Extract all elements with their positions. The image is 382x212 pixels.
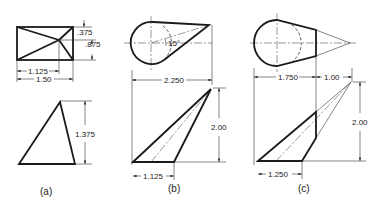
dim-c-100: 1.00 xyxy=(324,73,340,82)
panel-c-top-view: 1.750 1.00 xyxy=(250,13,356,165)
technical-drawing: .375 .875 1.125 1.50 1.375 (a) xyxy=(0,0,382,212)
panel-b-label: (b) xyxy=(168,183,180,194)
panel-a-top-view: .375 .875 1.125 1.50 xyxy=(17,20,101,84)
angle-15: 15° xyxy=(168,39,180,48)
dim-a-1375: 1.375 xyxy=(75,130,96,139)
panel-b-top-view: 15° 2.250 xyxy=(124,16,212,165)
dim-a-875: .875 xyxy=(85,40,101,49)
panel-a-front-view: 1.375 xyxy=(19,101,96,164)
panel-c-label: (c) xyxy=(298,183,310,194)
panel-a-label: (a) xyxy=(40,186,52,197)
panel-b-front-view: 2.00 1.125 xyxy=(133,88,227,181)
dim-b-200: 2.00 xyxy=(211,123,227,132)
panel-c-front-view: 2.00 1.250 xyxy=(258,82,368,179)
dim-a-150: 1.50 xyxy=(36,75,52,84)
panel-c: 1.750 1.00 2.00 1.250 (c) xyxy=(250,13,368,194)
dim-c-1750: 1.750 xyxy=(278,73,299,82)
dim-c-200: 2.00 xyxy=(352,118,368,127)
dim-a-375: .375 xyxy=(77,28,93,37)
dim-b-1125: 1.125 xyxy=(143,172,164,181)
panel-b: 15° 2.250 2.00 1.125 (b) xyxy=(124,16,227,194)
panel-a: .375 .875 1.125 1.50 1.375 (a) xyxy=(17,20,101,197)
dim-b-2250: 2.250 xyxy=(164,76,185,85)
dim-c-1250: 1.250 xyxy=(268,170,289,179)
